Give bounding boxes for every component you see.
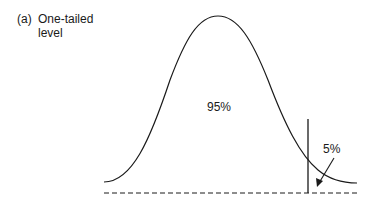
acceptance-region-label: 95% [207,100,231,114]
rejection-region-label: 5% [323,142,340,156]
arrow-icon [316,158,334,187]
normal-distribution-diagram [0,0,375,208]
